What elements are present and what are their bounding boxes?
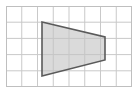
- geometry-figure-svg: [0, 0, 139, 93]
- figure-container: [0, 0, 139, 93]
